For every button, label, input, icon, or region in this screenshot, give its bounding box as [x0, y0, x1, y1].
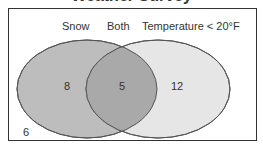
temperature-only-count: 12: [171, 80, 183, 92]
snow-only-count: 8: [64, 80, 70, 92]
both-count: 5: [119, 80, 125, 92]
neither-count: 6: [23, 126, 29, 138]
both-label: Both: [107, 20, 130, 32]
snow-label: Snow: [62, 20, 90, 32]
temperature-label: Temperature < 20°F: [142, 20, 240, 32]
